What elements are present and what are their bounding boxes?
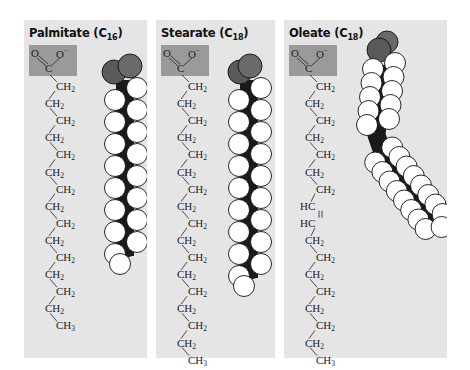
hydrogen-atom	[431, 217, 447, 238]
hydrogen-atom	[379, 109, 400, 130]
hydrogen-atom	[229, 156, 250, 177]
hydrogen-atom	[229, 178, 250, 199]
oxygen-atom	[118, 54, 142, 78]
hydrogen-atom	[229, 90, 250, 111]
hydrogen-atom	[105, 156, 126, 177]
panel-stearate: Stearate (C18) OO−CCH2CH2CH2CH2CH2CH2CH2…	[156, 20, 275, 358]
hydrogen-atom	[127, 210, 148, 231]
hydrogen-atom	[251, 188, 272, 209]
space-filling-model	[24, 20, 147, 358]
hydrogen-atom	[251, 232, 272, 253]
hydrogen-atom	[110, 254, 131, 275]
hydrogen-atom	[105, 222, 126, 243]
hydrogen-atom	[251, 166, 272, 187]
hydrogen-atom	[251, 78, 272, 99]
hydrogen-atom	[229, 112, 250, 133]
hydrogen-atom	[251, 210, 272, 231]
hydrogen-atom	[105, 200, 126, 221]
hydrogen-atom	[251, 254, 272, 275]
hydrogen-atom	[229, 200, 250, 221]
hydrogen-atom	[105, 112, 126, 133]
hydrogen-atom	[127, 232, 148, 253]
hydrogen-atom	[105, 90, 126, 111]
panel-oleate: Oleate (C18) OO−CCH2CH2CH2CH2CH2CH2CH2HC…	[284, 20, 447, 358]
hydrogen-atom	[251, 100, 272, 121]
space-filling-model	[284, 20, 447, 358]
hydrogen-atom	[229, 134, 250, 155]
hydrogen-atom	[357, 115, 378, 136]
hydrogen-atom	[127, 100, 148, 121]
hydrogen-atom	[127, 188, 148, 209]
hydrogen-atom	[234, 276, 255, 297]
hydrogen-atom	[127, 122, 148, 143]
hydrogen-atom	[127, 78, 148, 99]
space-filling-model	[156, 20, 275, 358]
hydrogen-atom	[127, 144, 148, 165]
hydrogen-atom	[251, 144, 272, 165]
hydrogen-atom	[105, 178, 126, 199]
panel-palmitate: Palmitate (C16) OO−CCH2CH2CH2CH2CH2CH2CH…	[24, 20, 147, 358]
hydrogen-atom	[105, 134, 126, 155]
oxygen-atom	[238, 54, 262, 78]
hydrogen-atom	[229, 244, 250, 265]
hydrogen-atom	[229, 222, 250, 243]
hydrogen-atom	[127, 166, 148, 187]
hydrogen-atom	[251, 122, 272, 143]
